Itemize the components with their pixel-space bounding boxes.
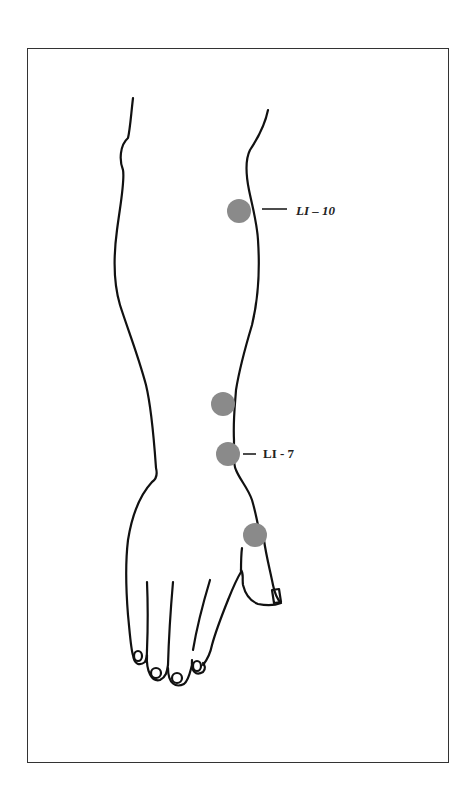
point-upper-wrist — [211, 392, 235, 416]
finger-separator-2 — [168, 582, 173, 665]
fingernail-2 — [151, 668, 161, 678]
point-thumb-base — [243, 523, 267, 547]
thumb-outline — [241, 540, 281, 605]
fingernail-4 — [193, 661, 201, 671]
point-li-10 — [227, 199, 251, 223]
arm-right-outline — [234, 110, 268, 530]
arm-left-outline — [115, 98, 157, 655]
hand-right-outline — [203, 600, 228, 665]
finger-separator-1 — [147, 582, 148, 650]
li-10-label: LI – 10 — [296, 203, 335, 219]
finger-separator-3 — [193, 580, 210, 650]
fingernail-3 — [172, 673, 182, 683]
thumb-inner-outline — [228, 548, 242, 600]
arm-diagram — [0, 0, 475, 802]
fingernail-1 — [134, 651, 142, 661]
li-7-label: LI - 7 — [263, 446, 294, 462]
point-li-7 — [216, 442, 240, 466]
